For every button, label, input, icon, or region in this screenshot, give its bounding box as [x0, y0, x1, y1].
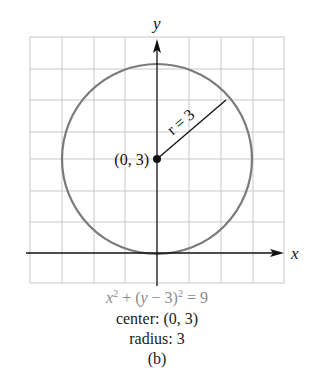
eq-y: y [140, 289, 147, 306]
x-axis-label: x [290, 244, 299, 263]
center-caption: center: (0, 3) [0, 310, 314, 328]
radius-caption: radius: 3 [0, 330, 314, 348]
eq-middle: + ( [118, 289, 140, 306]
center-point [153, 155, 161, 163]
circle-equation: x2 + (y − 3)2 = 9 [0, 289, 314, 307]
x-axis [26, 249, 284, 257]
eq-rest: − 3) [148, 289, 178, 306]
center-label: (0, 3) [114, 151, 149, 169]
part-label: (b) [0, 350, 314, 368]
eq-tail: = 9 [183, 289, 208, 306]
circle-graph: y x (0, 3) r = 3 [0, 0, 314, 290]
radius-label: r = 3 [163, 106, 197, 139]
y-axis-label: y [151, 14, 161, 33]
